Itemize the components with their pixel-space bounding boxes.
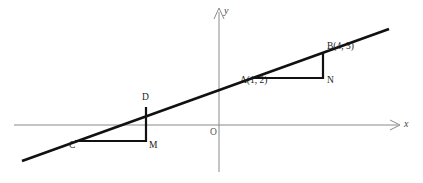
point-label-n: N <box>327 76 334 86</box>
figure-canvas <box>0 0 423 183</box>
geometry-figure: x y O A(1, 2) B(4, 3) N C D M <box>0 0 423 183</box>
point-label-c: C <box>69 141 75 151</box>
x-axis-label: x <box>404 119 408 129</box>
y-axis-label: y <box>224 6 228 16</box>
origin-label: O <box>210 128 217 138</box>
point-label-m: M <box>149 141 157 151</box>
point-label-a: A(1, 2) <box>240 76 267 86</box>
point-label-d: D <box>142 93 149 103</box>
point-label-b: B(4, 3) <box>327 42 354 52</box>
